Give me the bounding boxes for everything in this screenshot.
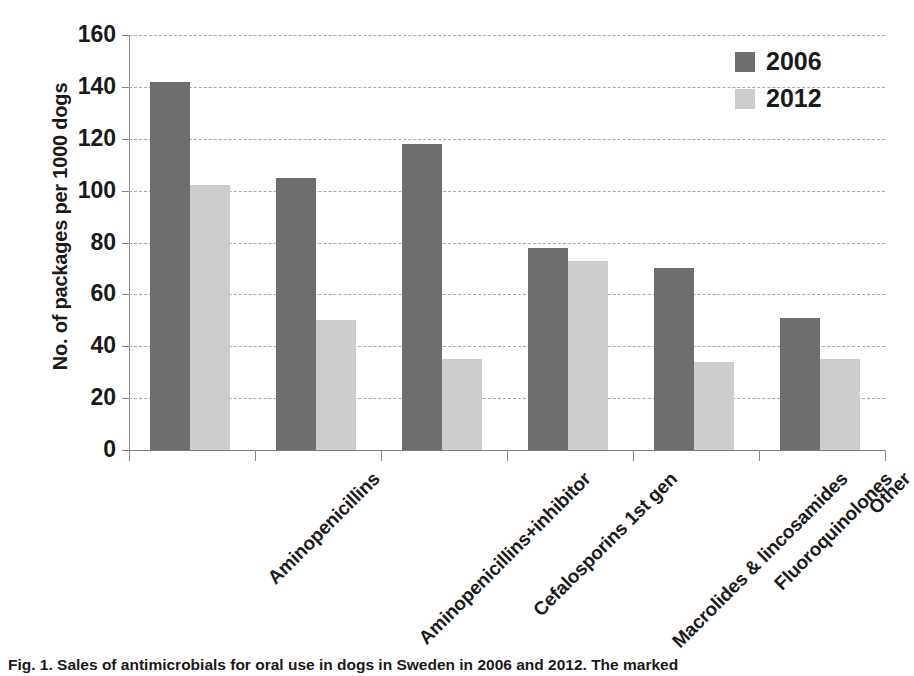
- y-tick-label-20: 20: [56, 386, 116, 409]
- gridline-100: [129, 191, 885, 192]
- bar-2006-2: [402, 144, 442, 450]
- y-tick-label-160: 160: [56, 23, 116, 46]
- bar-2006-4: [654, 268, 694, 450]
- legend-label-2012: 2012: [766, 86, 822, 111]
- legend-item-2012[interactable]: 2012: [735, 80, 822, 117]
- gridline-80: [129, 243, 885, 244]
- gridline-160: [129, 35, 885, 36]
- y-tick-label-100: 100: [56, 179, 116, 202]
- bar-2006-1: [276, 178, 316, 450]
- x-axis-separator-4: [633, 450, 634, 461]
- y-tick-label-60: 60: [56, 282, 116, 305]
- bar-2012-4: [694, 362, 734, 450]
- x-axis-separator-5: [759, 450, 760, 461]
- y-tick-mark-100: [122, 191, 129, 192]
- y-tick-mark-40: [122, 346, 129, 347]
- bar-2012-5: [820, 359, 860, 450]
- x-axis-separator-6: [885, 450, 886, 461]
- x-axis-label-1: Aminopenicillins+inhibitor: [415, 468, 596, 649]
- x-axis-separator-0: [129, 450, 130, 461]
- bar-2012-1: [316, 320, 356, 450]
- x-axis-label-0: Aminopenicillins: [264, 468, 385, 589]
- y-tick-mark-20: [122, 398, 129, 399]
- bar-2012-2: [442, 359, 482, 450]
- bar-2006-5: [780, 318, 820, 450]
- bar-2006-3: [528, 248, 568, 450]
- gridline-60: [129, 294, 885, 295]
- legend-swatch-2006: [735, 52, 755, 72]
- bar-2012-0: [190, 185, 230, 450]
- x-axis-separator-3: [507, 450, 508, 461]
- y-tick-mark-80: [122, 243, 129, 244]
- y-tick-mark-0: [122, 450, 129, 451]
- legend-swatch-2012: [735, 89, 755, 109]
- legend-label-2006: 2006: [766, 49, 822, 74]
- figure-caption: Fig. 1. Sales of antimicrobials for oral…: [8, 655, 892, 675]
- y-tick-mark-160: [122, 35, 129, 36]
- gridline-20: [129, 398, 885, 399]
- y-tick-label-0: 0: [56, 438, 116, 461]
- x-axis-separator-1: [255, 450, 256, 461]
- y-tick-label-40: 40: [56, 334, 116, 357]
- y-tick-mark-60: [122, 294, 129, 295]
- legend: 20062012: [735, 43, 822, 117]
- x-axis-separator-2: [381, 450, 382, 461]
- y-tick-mark-120: [122, 139, 129, 140]
- gridline-120: [129, 139, 885, 140]
- y-tick-label-80: 80: [56, 231, 116, 254]
- y-tick-label-140: 140: [56, 75, 116, 98]
- bar-2006-0: [150, 82, 190, 450]
- x-axis-label-3: Macrolides & lincosamides: [668, 468, 852, 652]
- bar-2012-3: [568, 261, 608, 450]
- y-tick-mark-140: [122, 87, 129, 88]
- x-axis-label-2: Cefalosporins 1st gen: [529, 468, 682, 621]
- y-tick-label-120: 120: [56, 127, 116, 150]
- legend-item-2006[interactable]: 2006: [735, 43, 822, 80]
- gridline-40: [129, 346, 885, 347]
